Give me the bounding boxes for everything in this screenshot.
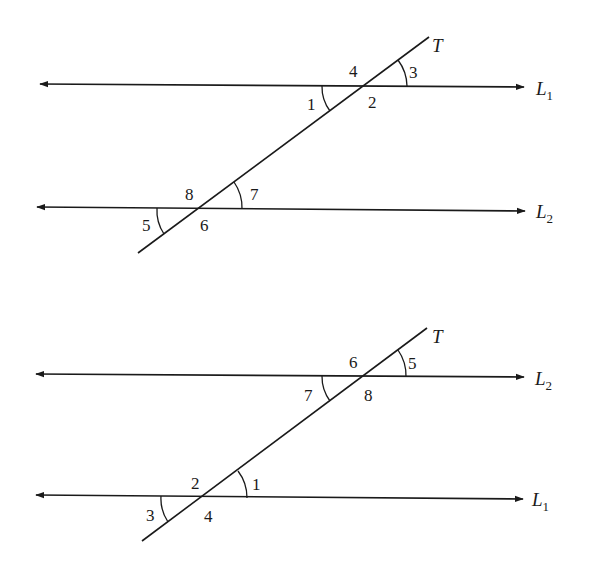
angle-arc-7	[322, 376, 330, 401]
angle-arc-3	[161, 496, 168, 522]
parallel-lines-diagram: 4 3 1 2 8 7 5 6 T L1 L2 6 5 7 8 2 1 3 4 …	[0, 0, 590, 568]
angle-label: 6	[200, 216, 209, 235]
angle-label: 1	[252, 475, 261, 494]
angle-label: 1	[307, 95, 316, 114]
angle-label: 3	[409, 63, 418, 82]
angle-arc-1	[322, 86, 330, 111]
line-label-lower: L2	[535, 201, 553, 226]
angle-label: 3	[146, 506, 155, 525]
angle-label: 4	[204, 507, 213, 526]
bottom-figure: 6 5 7 8 2 1 3 4 T L2 L1	[36, 326, 552, 541]
angle-arc-3	[398, 60, 407, 86]
angle-label: 5	[408, 354, 417, 373]
top-line-lower	[37, 207, 525, 211]
angle-label: 2	[368, 93, 377, 112]
angle-arc-5	[398, 350, 406, 377]
top-line-upper	[40, 84, 524, 87]
angle-label: 8	[185, 185, 194, 204]
line-label-upper: L2	[534, 368, 552, 393]
top-figure: 4 3 1 2 8 7 5 6 T L1 L2	[37, 35, 553, 253]
bottom-transversal	[142, 328, 427, 541]
angle-arc-7	[234, 182, 242, 209]
line-label-upper: L1	[535, 78, 553, 103]
transversal-label: T	[432, 35, 444, 56]
bottom-line-lower	[36, 495, 523, 499]
transversal-label: T	[432, 326, 444, 347]
angle-label: 4	[349, 62, 358, 81]
top-transversal	[138, 37, 429, 253]
angle-arc-5	[157, 208, 164, 234]
angle-label: 2	[191, 474, 200, 493]
angle-label: 5	[142, 216, 151, 235]
bottom-line-upper	[36, 374, 524, 377]
line-label-lower: L1	[531, 489, 549, 514]
angle-label: 7	[250, 185, 259, 204]
angle-arc-1	[238, 471, 247, 498]
angle-label: 6	[349, 353, 358, 372]
angle-label: 8	[364, 386, 373, 405]
angle-label: 7	[304, 386, 313, 405]
